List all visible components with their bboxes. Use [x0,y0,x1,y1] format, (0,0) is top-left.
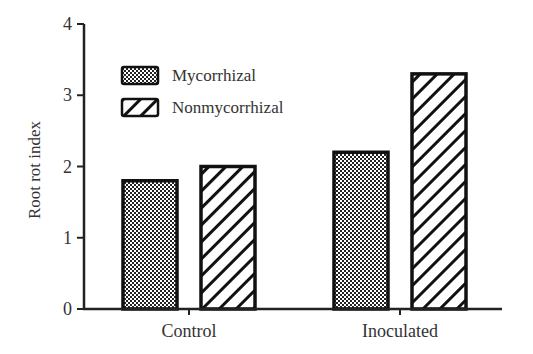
y-ticks: 01234 [63,14,84,319]
legend-label-mycorrhizal: Mycorrhizal [172,66,256,85]
bar-chart: 01234 ControlInoculated Root rot index M… [0,0,533,354]
legend-swatch-mycorrhizal [122,67,158,84]
x-tick-label-control: Control [161,321,216,341]
y-tick-label: 0 [63,299,72,319]
y-tick-label: 4 [63,14,72,34]
x-ticks: ControlInoculated [161,309,437,341]
bar-nonmycorrhizal-control [201,167,255,310]
bar-nonmycorrhizal-inoculated [412,74,466,309]
x-tick-label-inoculated: Inoculated [362,321,438,341]
legend: Mycorrhizal Nonmycorrhizal [122,66,284,117]
legend-label-nonmycorrhizal: Nonmycorrhizal [172,98,284,117]
bar-mycorrhizal-control [123,181,177,309]
y-axis-label: Root rot index [25,120,44,219]
y-tick-label: 2 [63,157,72,177]
y-tick-label: 1 [63,228,72,248]
legend-swatch-nonmycorrhizal [122,99,158,116]
bar-mycorrhizal-inoculated [334,152,388,309]
y-tick-label: 3 [63,85,72,105]
